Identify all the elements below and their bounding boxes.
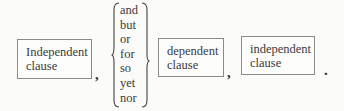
- box-label-line1: independent: [250, 42, 314, 56]
- conjunction-so: so: [120, 61, 138, 76]
- conjunction-for: for: [120, 47, 138, 62]
- conjunction-or: or: [120, 32, 138, 47]
- conjunction-yet: yet: [120, 76, 138, 91]
- comma-2: ,: [227, 64, 231, 81]
- box-label-line1: Independent: [26, 45, 91, 59]
- independent-clause-box-2: independent clause: [241, 36, 315, 75]
- coordinating-conjunctions-list: and but or for so yet nor: [120, 3, 138, 105]
- independent-clause-box-1: Independent clause: [17, 39, 92, 79]
- dependent-clause-box: dependent clause: [158, 38, 224, 77]
- comma-1: ,: [95, 66, 99, 83]
- box-label-line2: clause: [26, 59, 91, 73]
- conjunction-nor: nor: [120, 91, 138, 106]
- box-label-line2: clause: [250, 56, 314, 70]
- conjunction-and: and: [120, 3, 138, 18]
- conjunction-but: but: [120, 18, 138, 33]
- period: .: [324, 62, 328, 79]
- box-label-line2: clause: [167, 58, 223, 72]
- box-label-line1: dependent: [167, 44, 223, 58]
- right-brace-icon: [140, 2, 150, 108]
